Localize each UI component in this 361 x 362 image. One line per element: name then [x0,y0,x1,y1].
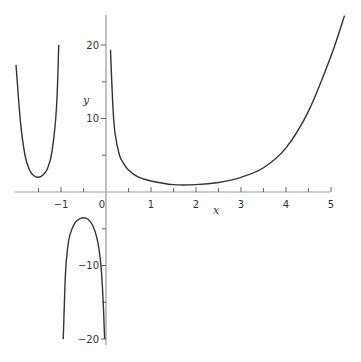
y-axis-label: y [82,94,90,107]
x-tick-label: 1 [148,199,154,210]
y-tick-label: −20 [78,334,99,345]
x-ticks: −1012345 [39,187,335,210]
curve-branch-right-of-0 [111,16,345,185]
y-tick-label: 20 [86,40,99,51]
x-tick-label: 3 [238,199,244,210]
y-tick-label: −10 [78,260,99,271]
curves [16,16,345,339]
x-tick-label: 2 [193,199,199,210]
x-tick-label: 5 [328,199,334,210]
curve-branch-left-of-minus-1 [16,45,59,177]
x-tick-label: −1 [54,199,69,210]
x-tick-label: 0 [99,199,105,210]
x-axis-label: x [213,204,220,217]
y-tick-label: 10 [86,113,99,124]
function-plot: −1012345 2010−10−20 x y [0,0,361,362]
curve-branch-between-minus-1-and-0 [63,218,104,339]
axes [15,15,330,345]
x-tick-label: 4 [283,199,289,210]
